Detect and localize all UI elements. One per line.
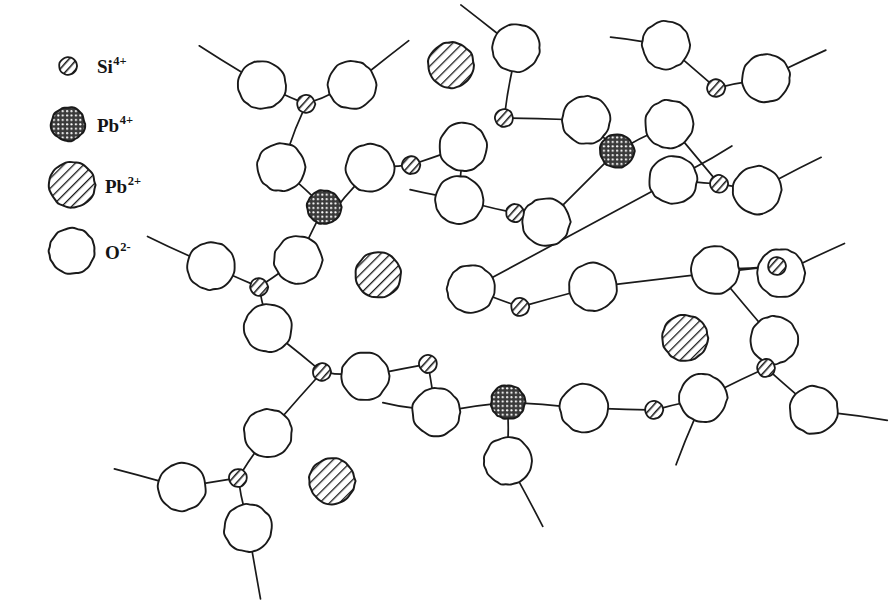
oxygen-ion-o9 bbox=[435, 176, 483, 224]
dangling-bond-o31-13 bbox=[252, 550, 261, 599]
dangling-bond-o15-6 bbox=[148, 236, 192, 256]
bond-pb4c-o26 bbox=[522, 403, 563, 406]
dangling-bond-o27-11 bbox=[676, 418, 695, 464]
dangling-bond-o25-10 bbox=[518, 480, 542, 526]
dangling-bond-o30-12 bbox=[114, 469, 160, 481]
silicon-ion-si5 bbox=[710, 175, 728, 193]
dangling-bond-o9-15 bbox=[410, 190, 437, 196]
silicon-ion-si1 bbox=[297, 95, 315, 113]
lead2-ion-pb2c bbox=[662, 315, 708, 361]
bond-o23-si11 bbox=[386, 365, 422, 372]
oxygen-ion-o30 bbox=[158, 463, 206, 512]
bond-si12-o27 bbox=[722, 371, 761, 389]
silicon-ion-si11 bbox=[419, 355, 437, 373]
dangling-bond-o5-2 bbox=[461, 5, 499, 35]
oxygen-ion-o4 bbox=[346, 144, 395, 192]
dangling-bond-o2-1 bbox=[369, 41, 408, 72]
bond-o9-si6 bbox=[479, 205, 509, 212]
oxygen-ion-o3 bbox=[257, 143, 305, 191]
bond-pb4b-o10 bbox=[561, 161, 607, 207]
oxygen-ion-o23 bbox=[341, 353, 389, 400]
oxygen-ion-o15 bbox=[187, 242, 234, 290]
silicon-ion-si14 bbox=[229, 469, 247, 487]
oxygen-ion-o1 bbox=[238, 61, 286, 108]
legend-charge-pb2plus: 2+ bbox=[128, 174, 141, 188]
lead4-ion-pb4a bbox=[307, 190, 342, 223]
silicon-ion-si2 bbox=[495, 109, 513, 127]
legend-charge-pb4plus: 4+ bbox=[120, 113, 133, 127]
bond-o17-si10 bbox=[284, 341, 317, 368]
figure-root: Si4+Pb4+Pb2+O2- bbox=[0, 0, 892, 614]
oxygen-ion-o22 bbox=[751, 316, 799, 365]
oxygen-ion-o28 bbox=[790, 386, 838, 434]
silicon-ion-si3 bbox=[707, 79, 725, 97]
dangling-bond-o24-16 bbox=[383, 403, 415, 409]
oxygen-ion-o29 bbox=[244, 409, 292, 457]
dangling-bond-o21-8 bbox=[801, 243, 845, 263]
silicon-ion-si12 bbox=[757, 359, 775, 377]
oxygen-ion-o26 bbox=[559, 384, 608, 433]
bond-si1-o3 bbox=[289, 110, 304, 148]
legend-label-pb4plus: Pb4+ bbox=[97, 113, 133, 136]
oxygen-ion-o2 bbox=[328, 61, 377, 109]
oxygen-ion-o12 bbox=[742, 54, 790, 102]
oxygen-ion-o19 bbox=[569, 263, 617, 311]
bond-si12-o28 bbox=[771, 372, 799, 396]
oxygen-ion-o18 bbox=[447, 265, 495, 313]
bond-o5-si2 bbox=[505, 69, 512, 112]
dangling-bond-o28-9 bbox=[836, 413, 887, 420]
legend-marker-o2minus bbox=[49, 228, 95, 274]
bond-si10-o29 bbox=[282, 376, 318, 417]
silicon-ion-si8 bbox=[511, 298, 529, 316]
legend-label-si4plus: Si4+ bbox=[97, 54, 127, 77]
dangling-bond-o1-0 bbox=[199, 46, 243, 74]
oxygen-ion-o10 bbox=[522, 199, 570, 246]
oxygen-ion-o5 bbox=[492, 24, 540, 72]
legend-marker-pb4plus bbox=[51, 107, 85, 141]
legend-charge-o2minus: 2- bbox=[120, 240, 130, 254]
bond-o11-si3 bbox=[682, 59, 712, 84]
oxygen-ion-o8 bbox=[645, 100, 693, 148]
oxygen-ion-o27 bbox=[679, 374, 728, 422]
legend-marker-pb2plus bbox=[49, 162, 96, 208]
silicon-ion-si13 bbox=[645, 401, 663, 419]
lead4-ion-pb4b bbox=[600, 134, 635, 167]
dangling-bond-o12-4 bbox=[786, 50, 826, 69]
legend-marker-si4plus bbox=[59, 57, 77, 75]
legend-label-o2minus: O2- bbox=[105, 240, 131, 263]
oxygen-ion-o7 bbox=[562, 96, 610, 144]
legend: Si4+Pb4+Pb2+O2- bbox=[49, 54, 141, 274]
silicon-ion-si4 bbox=[402, 156, 420, 174]
oxygen-ion-o14 bbox=[733, 166, 782, 215]
silicon-ion-si9 bbox=[768, 257, 786, 275]
legend-charge-si4plus: 4+ bbox=[113, 54, 126, 68]
glass-network-diagram: Si4+Pb4+Pb2+O2- bbox=[0, 0, 892, 614]
dangling-bond-o14-5 bbox=[777, 157, 822, 180]
dangling-bond-o13-7 bbox=[692, 146, 732, 169]
silicon-ion-si7 bbox=[250, 278, 268, 296]
bond-o24-pb4c bbox=[457, 404, 494, 409]
dangling-bond-o11-3 bbox=[611, 37, 645, 42]
silicon-ion-si10 bbox=[313, 363, 331, 381]
legend-label-pb2plus: Pb2+ bbox=[105, 174, 141, 197]
lead2-ion-pb2b bbox=[356, 252, 401, 297]
oxygen-ion-o20 bbox=[691, 246, 739, 294]
lead2-ion-pb2a bbox=[428, 42, 474, 88]
bond-si14-o30 bbox=[203, 479, 232, 484]
bond-o26-si13 bbox=[605, 409, 648, 410]
oxygen-ion-o24 bbox=[412, 388, 460, 436]
bond-o20-o22 bbox=[729, 286, 761, 324]
oxygen-ion-o25 bbox=[484, 437, 532, 485]
bond-si4-o6 bbox=[417, 154, 443, 163]
oxygen-ion-o11 bbox=[642, 21, 690, 70]
oxygen-ion-o13 bbox=[649, 156, 697, 204]
lead2-ion-pb2d bbox=[309, 458, 355, 504]
oxygen-ion-o16 bbox=[274, 236, 323, 284]
lead4-ion-pb4c bbox=[491, 385, 526, 418]
bond-si8-o19 bbox=[526, 293, 573, 306]
silicon-ion-si6 bbox=[506, 204, 523, 222]
oxygen-ion-o6 bbox=[440, 123, 487, 171]
bond-si2-o7 bbox=[510, 118, 565, 119]
oxygen-ion-o17 bbox=[244, 304, 292, 352]
oxygen-ion-o31 bbox=[224, 504, 272, 552]
